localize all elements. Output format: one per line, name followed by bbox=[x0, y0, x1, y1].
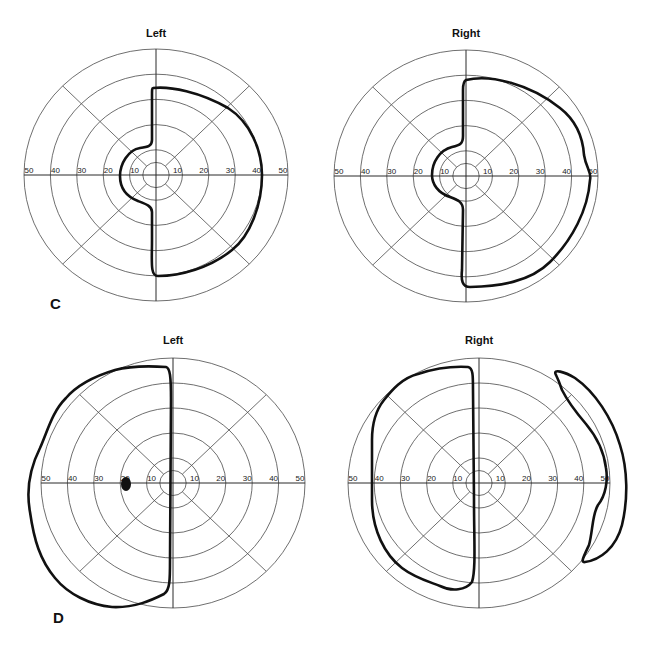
charts-layer: Left50403020101020304050Right50403020101… bbox=[24, 27, 626, 608]
tick-label: 40 bbox=[562, 167, 571, 176]
tick-label: 10 bbox=[483, 167, 492, 176]
tick-label: 10 bbox=[130, 166, 139, 175]
tick-label: 10 bbox=[496, 474, 505, 483]
diagonal-meridian bbox=[80, 492, 164, 572]
chart-title: Right bbox=[465, 334, 493, 346]
panel-label-d: D bbox=[53, 609, 64, 626]
tick-label: 20 bbox=[199, 166, 208, 175]
diagonal-meridian bbox=[182, 492, 266, 572]
tick-label: 30 bbox=[243, 474, 252, 483]
isopter-boundary bbox=[28, 366, 171, 607]
tick-label: 40 bbox=[574, 474, 583, 483]
tick-label: 30 bbox=[77, 166, 86, 175]
tick-label: 30 bbox=[387, 167, 396, 176]
tick-label: 10 bbox=[147, 474, 156, 483]
tick-label: 20 bbox=[427, 474, 436, 483]
diagonal-meridian bbox=[386, 395, 469, 475]
chart-title: Left bbox=[163, 334, 184, 346]
tick-label: 10 bbox=[453, 474, 462, 483]
diagonal-meridian bbox=[63, 184, 147, 264]
visual-field-figure: Left50403020101020304050Right50403020101… bbox=[0, 0, 650, 645]
tick-label: 40 bbox=[252, 166, 261, 175]
tick-label: 10 bbox=[173, 166, 182, 175]
tick-label: 50 bbox=[25, 166, 34, 175]
tick-label: 30 bbox=[226, 166, 235, 175]
tick-label: 20 bbox=[522, 474, 531, 483]
perimetry-chart-c-left: Left50403020101020304050 bbox=[24, 27, 288, 301]
diagonal-meridian bbox=[80, 395, 164, 475]
perimetry-chart-d-right: Right50403020101020304050 bbox=[348, 334, 626, 608]
tick-label: 50 bbox=[349, 474, 358, 483]
tick-label: 40 bbox=[68, 474, 77, 483]
diagonal-meridian bbox=[386, 492, 469, 572]
blind-spot-scotoma bbox=[121, 477, 131, 491]
diagonal-meridian bbox=[182, 395, 266, 475]
diagonal-meridian bbox=[488, 395, 571, 475]
tick-label: 10 bbox=[440, 167, 449, 176]
diagonal-meridian bbox=[63, 86, 147, 166]
tick-label: 40 bbox=[269, 474, 278, 483]
chart-title: Left bbox=[146, 27, 167, 39]
isopter-boundary bbox=[432, 78, 590, 287]
tick-label: 40 bbox=[361, 167, 370, 176]
tick-label: 30 bbox=[401, 474, 410, 483]
perimetry-chart-d-left: Left50403020101020304050 bbox=[28, 334, 305, 608]
tick-label: 30 bbox=[548, 474, 557, 483]
tick-label: 40 bbox=[375, 474, 384, 483]
diagonal-meridian bbox=[373, 185, 457, 265]
diagonal-meridian bbox=[165, 184, 249, 264]
tick-label: 40 bbox=[51, 166, 60, 175]
perimetry-chart-c-right: Right50403020101020304050 bbox=[334, 27, 598, 302]
tick-label: 10 bbox=[190, 474, 199, 483]
tick-label: 50 bbox=[335, 167, 344, 176]
tick-label: 50 bbox=[42, 474, 51, 483]
tick-label: 20 bbox=[414, 167, 423, 176]
diagonal-meridian bbox=[475, 185, 559, 265]
tick-label: 50 bbox=[279, 166, 288, 175]
tick-label: 30 bbox=[536, 167, 545, 176]
chart-title: Right bbox=[452, 27, 480, 39]
panel-label-c: C bbox=[50, 295, 61, 312]
diagonal-meridian bbox=[488, 492, 571, 572]
isopter-boundary bbox=[120, 88, 262, 276]
tick-label: 30 bbox=[94, 474, 103, 483]
diagonal-meridian bbox=[373, 87, 457, 167]
tick-label: 20 bbox=[509, 167, 518, 176]
tick-label: 20 bbox=[104, 166, 113, 175]
tick-label: 50 bbox=[296, 474, 305, 483]
tick-label: 20 bbox=[216, 474, 225, 483]
